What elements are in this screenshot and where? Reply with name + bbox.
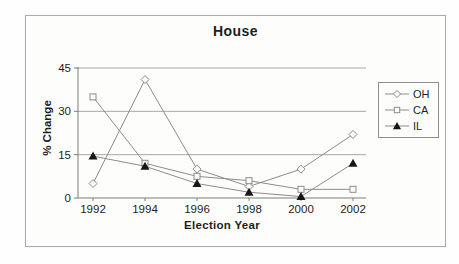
chart-image: House 0153045199219941996199820002002 % … xyxy=(0,0,459,264)
legend-label: CA xyxy=(413,104,428,116)
svg-text:15: 15 xyxy=(58,149,71,161)
legend: OHCAIL xyxy=(378,82,439,138)
svg-text:0: 0 xyxy=(65,192,71,204)
tick-labels: 0153045199219941996199820002002 xyxy=(58,62,366,215)
svg-text:30: 30 xyxy=(58,105,71,117)
legend-marker-filled-triangle-icon xyxy=(384,120,410,132)
legend-entry-CA: CA xyxy=(384,104,436,116)
legend-marker-open-diamond-icon xyxy=(384,88,410,100)
legend-entry-OH: OH xyxy=(384,88,436,100)
series-OH xyxy=(89,76,357,191)
svg-text:1992: 1992 xyxy=(80,203,106,215)
svg-text:2002: 2002 xyxy=(340,203,366,215)
svg-text:1998: 1998 xyxy=(236,203,262,215)
legend-label: OH xyxy=(413,88,430,100)
legend-entry-IL: IL xyxy=(384,120,436,132)
svg-text:2000: 2000 xyxy=(288,203,314,215)
chart-frame: House 0153045199219941996199820002002 % … xyxy=(25,15,446,247)
x-axis-title: Election Year xyxy=(78,219,366,231)
legend-marker-open-square-icon xyxy=(384,104,410,116)
gridlines xyxy=(78,68,366,155)
y-axis-title: % Change xyxy=(41,80,53,176)
legend-label: IL xyxy=(413,120,422,132)
svg-text:1994: 1994 xyxy=(132,203,158,215)
svg-text:45: 45 xyxy=(58,62,71,74)
svg-text:1996: 1996 xyxy=(184,203,210,215)
